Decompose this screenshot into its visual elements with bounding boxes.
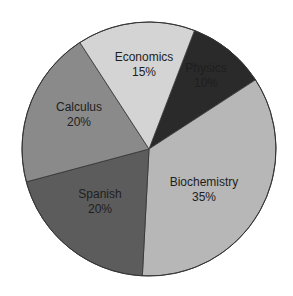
slice-label-calculus: Calculus <box>56 100 102 114</box>
pie-chart: Physics10%Biochemistry35%Spanish20%Calcu… <box>0 0 293 296</box>
slice-label-economics: Economics <box>115 50 174 64</box>
slice-value-economics: 15% <box>132 65 156 79</box>
slice-value-spanish: 20% <box>88 202 112 216</box>
slice-value-calculus: 20% <box>67 115 91 129</box>
slice-value-biochemistry: 35% <box>192 190 216 204</box>
slice-label-biochemistry: Biochemistry <box>170 175 239 189</box>
slice-value-physics: 10% <box>194 76 218 90</box>
slice-label-physics: Physics <box>185 61 226 75</box>
slice-label-spanish: Spanish <box>78 187 121 201</box>
